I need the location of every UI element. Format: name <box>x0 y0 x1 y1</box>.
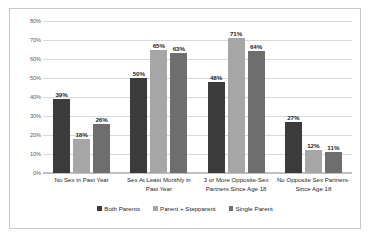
bar-value-label: 39% <box>55 91 67 98</box>
y-axis-tick: 40% <box>30 94 41 100</box>
y-axis-tick: 10% <box>30 151 41 157</box>
bar-value-label: 27% <box>287 114 299 121</box>
y-axis-tick: 50% <box>30 75 41 81</box>
bar[interactable]: 63% <box>170 53 187 173</box>
plot-area: 39%18%26%50%65%63%48%71%64%27%12%11% <box>43 21 352 173</box>
legend-item[interactable]: Single Parent <box>229 205 273 212</box>
category-label: 3 or More Opposite-Sex Partners Since Ag… <box>198 176 275 193</box>
chart-legend: Both ParentsParent + StepparentSingle Pa… <box>10 205 360 212</box>
bar-group: 27%12%11% <box>275 21 352 173</box>
y-axis-tick: 30% <box>30 113 41 119</box>
y-axis-tick: 0% <box>33 170 41 176</box>
bar-group: 48%71%64% <box>198 21 275 173</box>
gridline <box>43 173 352 174</box>
legend-item[interactable]: Parent + Stepparent <box>153 205 216 212</box>
bar-slot: 18% <box>73 21 90 173</box>
bar-value-label: 63% <box>173 45 185 52</box>
bar-value-label: 48% <box>210 74 222 81</box>
bar-slot: 50% <box>130 21 147 173</box>
bar[interactable]: 65% <box>150 50 167 174</box>
legend-swatch-icon <box>229 206 234 211</box>
bar-slot: 71% <box>228 21 245 173</box>
category-labels: No Sex in Past YearSex At Least Monthly … <box>43 176 352 193</box>
bar[interactable]: 48% <box>208 82 225 173</box>
bar-slot: 48% <box>208 21 225 173</box>
bar-slot: 11% <box>325 21 342 173</box>
legend-swatch-icon <box>97 206 102 211</box>
bar[interactable]: 50% <box>130 78 147 173</box>
y-axis-tick: 60% <box>30 56 41 62</box>
category-label: Sex At Least Monthly in Past Year <box>120 176 197 193</box>
bar[interactable]: 11% <box>325 152 342 173</box>
bar-slot: 27% <box>285 21 302 173</box>
bar[interactable]: 64% <box>248 51 265 173</box>
category-label: No Sex in Past Year <box>43 176 120 193</box>
chart-plot-wrapper: 80%70%60%50%40%30%20%10%0% 39%18%26%50%6… <box>10 9 360 228</box>
bar-value-label: 18% <box>75 131 87 138</box>
legend-label: Single Parent <box>236 205 273 212</box>
y-axis-tick: 80% <box>30 18 41 24</box>
bar-value-label: 50% <box>133 70 145 77</box>
bar-group: 50%65%63% <box>120 21 197 173</box>
y-axis: 80%70%60%50%40%30%20%10%0% <box>14 21 41 173</box>
bar[interactable]: 18% <box>73 139 90 173</box>
bar[interactable]: 27% <box>285 122 302 173</box>
bar-group: 39%18%26% <box>43 21 120 173</box>
bar[interactable]: 71% <box>228 38 245 173</box>
bar-value-label: 11% <box>327 144 339 151</box>
legend-label: Parent + Stepparent <box>160 205 216 212</box>
y-axis-tick: 70% <box>30 37 41 43</box>
bar-slot: 63% <box>170 21 187 173</box>
category-label: No Opposite Sex Partners-Since Age 18 <box>275 176 352 193</box>
bar[interactable]: 26% <box>93 124 110 173</box>
legend-label: Both Parents <box>104 205 140 212</box>
bar[interactable]: 39% <box>53 99 70 173</box>
bar-slot: 26% <box>93 21 110 173</box>
bar-slot: 12% <box>305 21 322 173</box>
bar-slot: 65% <box>150 21 167 173</box>
bar-value-label: 26% <box>95 116 107 123</box>
bar-value-label: 65% <box>153 42 165 49</box>
legend-swatch-icon <box>153 206 158 211</box>
bar-slot: 39% <box>53 21 70 173</box>
bar-value-label: 64% <box>250 43 262 50</box>
bar[interactable]: 12% <box>305 150 322 173</box>
bar-value-label: 71% <box>230 30 242 37</box>
legend-item[interactable]: Both Parents <box>97 205 140 212</box>
y-axis-tick: 20% <box>30 132 41 138</box>
bar-groups: 39%18%26%50%65%63%48%71%64%27%12%11% <box>43 21 352 173</box>
bar-value-label: 12% <box>307 142 319 149</box>
chart-container: 80%70%60%50%40%30%20%10%0% 39%18%26%50%6… <box>9 8 361 229</box>
bar-slot: 64% <box>248 21 265 173</box>
